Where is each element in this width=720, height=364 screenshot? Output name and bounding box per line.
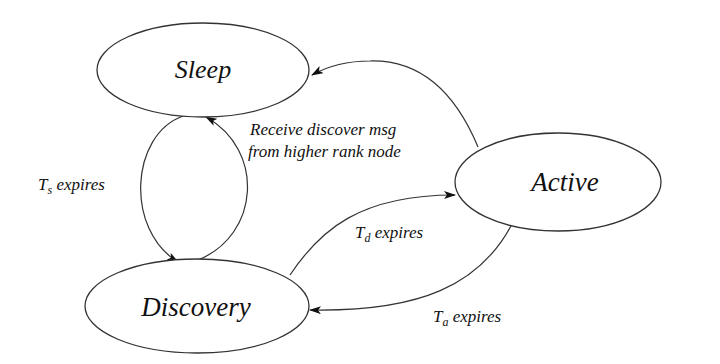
state-diagram: Sleep Active Discovery Ts expires Receiv… (0, 0, 720, 364)
sleep-label: Sleep (175, 55, 231, 84)
node-active: Active (455, 133, 661, 231)
label-ta-expires: Ta expires (433, 307, 502, 329)
edge-sleep-to-discovery (141, 116, 183, 262)
label-receive-discover-line2: from higher rank node (248, 142, 401, 161)
discovery-label: Discovery (140, 292, 250, 322)
active-label: Active (529, 167, 598, 197)
label-td-expires: Td expires (355, 223, 424, 245)
edge-discovery-to-sleep (198, 117, 248, 260)
label-ts-expires: Ts expires (38, 175, 105, 197)
label-receive-discover-line1: Receive discover msg (249, 120, 396, 139)
node-sleep: Sleep (97, 23, 309, 117)
node-discovery: Discovery (85, 259, 309, 353)
